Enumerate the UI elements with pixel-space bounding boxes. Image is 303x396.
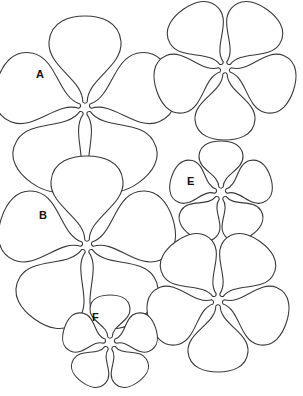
flower-label-a: A — [36, 68, 44, 80]
flower-template-sheet: ABEF — [0, 0, 303, 396]
flower-e — [165, 141, 278, 248]
flower-label-f: F — [92, 311, 99, 323]
flower-top-right — [147, 0, 303, 140]
flower-label-b: B — [39, 209, 47, 221]
flower-label-e: E — [187, 175, 194, 187]
